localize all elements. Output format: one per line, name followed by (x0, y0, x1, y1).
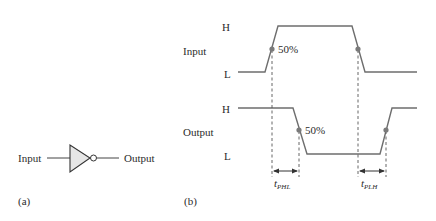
panel-a-caption: (a) (18, 195, 31, 208)
tphl-arrow (273, 169, 298, 174)
input-signal-label: Input (183, 45, 206, 57)
panel-b-timing-diagram: H Input L H Output L 50% 50% tPHL (183, 21, 417, 208)
output-low-label: L (224, 150, 231, 162)
tplh-arrow (359, 169, 385, 174)
inverter-bubble-icon (91, 155, 97, 161)
inverter-triangle-icon (70, 145, 90, 172)
output-rise-50-dot (383, 127, 388, 132)
input-high-label: H (222, 21, 230, 33)
output-high-label: H (222, 103, 230, 115)
output-signal-label: Output (183, 126, 214, 138)
tplh-label: tPLH (361, 177, 378, 191)
inverter-input-label: Input (18, 152, 41, 164)
panel-a-inverter: Input Output (a) (18, 145, 155, 208)
input-low-label: L (224, 68, 231, 80)
panel-b-caption: (b) (184, 195, 197, 208)
output-50-percent-label: 50% (305, 124, 325, 136)
input-fall-50-dot (355, 46, 360, 51)
output-waveform (238, 108, 417, 154)
output-fall-50-dot (296, 127, 301, 132)
tphl-label: tPHL (274, 177, 290, 191)
input-50-percent-label: 50% (278, 43, 298, 55)
input-waveform (238, 26, 417, 72)
input-rise-50-dot (269, 46, 274, 51)
propagation-delay-figure: Input Output (a) H Input L H Output L 50… (0, 0, 436, 221)
inverter-output-label: Output (124, 152, 155, 164)
